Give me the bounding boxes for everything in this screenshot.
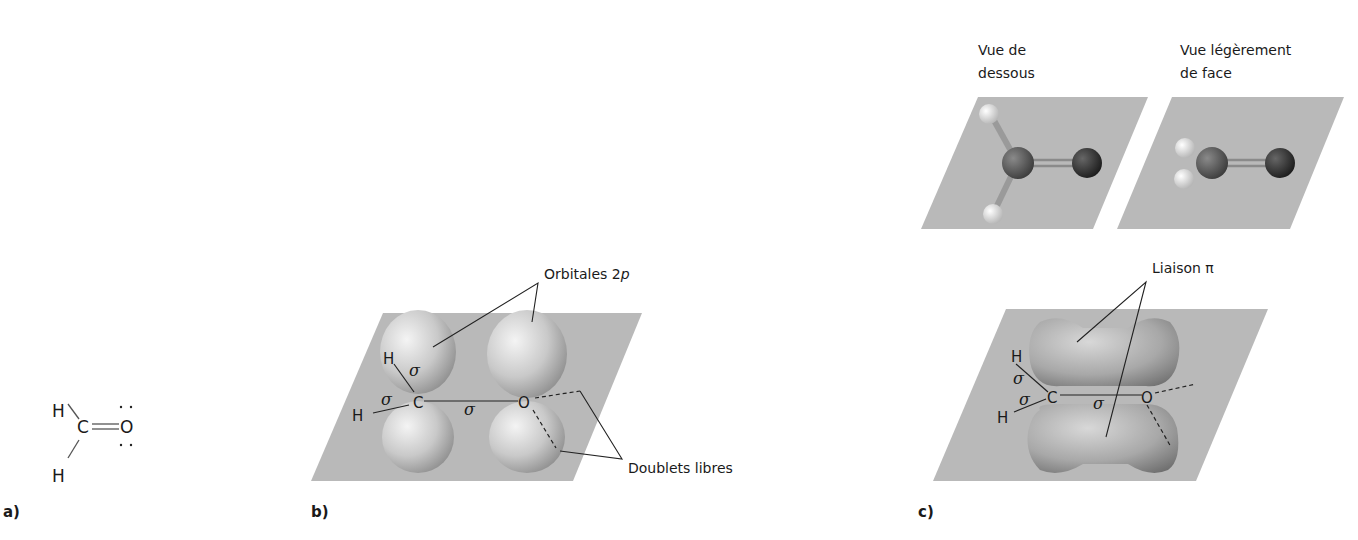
molecular-plane	[1117, 97, 1344, 229]
panel-b-orbitals-2p: H H C O σ σ σ Orbitales 2p Doublets libr…	[311, 266, 733, 521]
panel-c-pi-bond: Vue de dessous Vue légèrement de face	[918, 42, 1344, 521]
pi-bond-lower-lobe	[1028, 404, 1179, 473]
atom-h-bottom: H	[52, 466, 65, 486]
carbon-atom-ball	[1196, 147, 1228, 179]
sigma-label-c-o: σ	[1093, 394, 1105, 413]
atom-carbon: C	[1047, 389, 1057, 407]
pi-bond-orbital-model: H H C O σ σ σ Liaison π	[933, 260, 1268, 481]
oxygen-atom-ball	[1265, 148, 1295, 178]
pi-bond-label: Liaison π	[1152, 260, 1214, 276]
formaldehyde-orbital-figure: H H C O a) H H C O σ σ	[0, 0, 1358, 540]
panel-label-b: b)	[311, 503, 329, 521]
ball-stick-model-front	[1117, 97, 1344, 229]
panel-a-lewis-structure: H H C O a)	[3, 401, 133, 521]
ball-stick-model-below	[921, 97, 1148, 229]
molecular-plane	[311, 313, 642, 481]
atom-h-top: H	[1011, 348, 1022, 366]
atom-oxygen: O	[120, 417, 133, 437]
bond-c-h-top	[68, 404, 79, 419]
view-below-label-line2: dessous	[978, 65, 1035, 81]
pi-bond-upper-lobe	[1029, 318, 1179, 386]
sigma-label-c-h-left: σ	[381, 390, 393, 409]
hydrogen-atom-ball	[1175, 138, 1195, 158]
atom-oxygen: O	[1141, 389, 1153, 407]
oxygen-atom-ball	[1072, 148, 1102, 178]
view-front-label-line1: Vue légèrement	[1180, 42, 1292, 58]
sigma-label-c-h-top: σ	[1013, 369, 1025, 388]
panel-label-a: a)	[3, 503, 20, 521]
sigma-label-c-o: σ	[464, 400, 476, 419]
atom-carbon: C	[413, 394, 423, 412]
atom-h-left: H	[352, 407, 363, 425]
sigma-label-c-h-top: σ	[409, 361, 421, 380]
view-front-label-line2: de face	[1180, 65, 1232, 81]
bond-c-h-bottom	[68, 440, 79, 458]
lone-pairs-label: Doublets libres	[628, 460, 733, 476]
atom-h-top: H	[383, 350, 394, 368]
atom-oxygen: O	[518, 394, 530, 412]
hydrogen-atom-ball	[1174, 169, 1194, 189]
atom-h-left: H	[997, 409, 1008, 427]
carbon-atom-ball	[1002, 147, 1034, 179]
hydrogen-atom-ball	[983, 204, 1003, 224]
atom-h-top: H	[52, 401, 65, 421]
view-below-label-line1: Vue de	[978, 42, 1026, 58]
panel-label-c: c)	[918, 503, 934, 521]
orbital-2p-oxygen-upper-lobe	[487, 310, 567, 398]
orbitals-2p-label: Orbitales 2p	[544, 266, 630, 282]
molecular-plane	[921, 97, 1148, 229]
sigma-label-c-h-left: σ	[1019, 390, 1031, 409]
hydrogen-atom-ball	[979, 104, 999, 124]
atom-carbon: C	[77, 417, 89, 437]
